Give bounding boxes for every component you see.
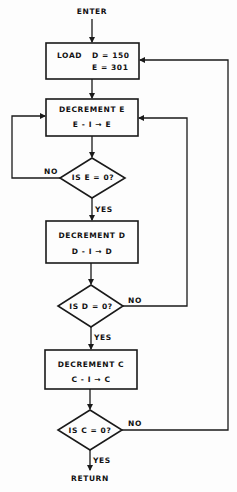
decrement-c-title: DECREMENT C [58,361,124,369]
load-box-title: LOAD [57,52,82,60]
decrement-e-operation: E - I → E [73,121,111,129]
load-box-line2: E = 301 [92,64,129,72]
no-loop-d [123,118,187,306]
decrement-d-operation: D - I → D [72,248,112,256]
decrement-d-title: DECREMENT D [58,232,125,240]
decision-d-no-label: NO [128,297,142,305]
decision-c-no-label: NO [128,420,142,428]
flowchart-connectors [0,0,237,492]
decision-c-question: IS C = 0? [69,427,112,435]
return-label: RETURN [71,475,109,483]
decision-e-yes-label: YES [95,206,113,214]
decision-e-question: IS E = 0? [72,174,114,182]
flowchart-canvas: ENTER LOAD D = 150 E = 301 DECREMENT E E… [0,0,237,492]
decrement-e-title: DECREMENT E [59,106,125,114]
load-box-shape [46,43,139,79]
decrement-c-operation: C - I → C [71,376,110,384]
enter-label: ENTER [77,8,107,16]
decision-e-no-label: NO [44,168,58,176]
load-box-line1: D = 150 [92,52,130,60]
decision-d-question: IS D = 0? [69,303,113,311]
decrement-d-box-shape [46,221,138,263]
decision-d-yes-label: YES [94,334,112,342]
decision-c-yes-label: YES [93,457,111,465]
